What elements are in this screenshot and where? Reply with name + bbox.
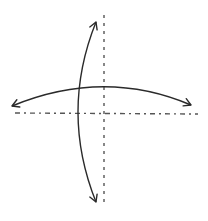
horizontal-curved-arrow <box>12 87 191 106</box>
diagram-svg <box>0 0 208 221</box>
diagram-canvas <box>0 0 208 221</box>
vertical-curved-arrow <box>78 22 96 202</box>
horizontal-axis <box>15 113 198 114</box>
